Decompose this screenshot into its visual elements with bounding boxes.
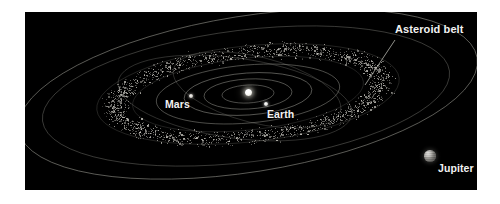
figure-root: Asteroid belt Mars Earth Jupiter <box>0 0 500 204</box>
earth-label: Earth <box>267 108 294 120</box>
asteroid-belt-leader-line <box>365 40 395 85</box>
mars-label: Mars <box>165 98 190 110</box>
space-canvas: Asteroid belt Mars Earth Jupiter <box>25 12 477 190</box>
orbit-diagram <box>25 12 477 190</box>
orbit-inclined-crossing <box>113 37 358 154</box>
jupiter-label: Jupiter <box>438 162 474 174</box>
sun-body <box>245 89 252 96</box>
orbit-jupiter <box>25 12 477 190</box>
jupiter-body <box>424 150 436 162</box>
asteroid-belt-label: Asteroid belt <box>395 23 464 35</box>
orbit-outer-secondary <box>34 12 457 186</box>
